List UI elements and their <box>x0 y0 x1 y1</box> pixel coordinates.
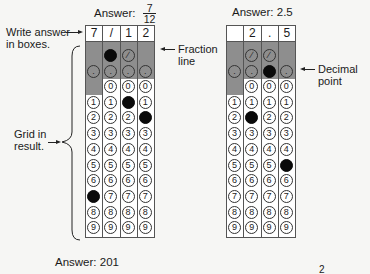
answer-box[interactable] <box>227 26 244 41</box>
digit-bubble-2[interactable]: 2 <box>263 111 276 124</box>
digit-bubble-6[interactable]: 6 <box>228 174 241 187</box>
digit-bubble-9[interactable]: 9 <box>280 221 293 234</box>
digit-bubble-2[interactable]: 2 <box>245 111 258 124</box>
digit-bubble-4[interactable]: 4 <box>280 143 293 156</box>
digit-bubble-2[interactable]: 2 <box>122 111 135 124</box>
digit-bubble-7[interactable]: 7 <box>104 190 117 203</box>
digit-bubble-0[interactable]: 0 <box>280 80 293 93</box>
digit-bubble-6[interactable]: 6 <box>280 174 293 187</box>
digit-bubble-5[interactable]: 5 <box>263 159 276 172</box>
digit-bubble-7[interactable]: 7 <box>87 190 100 203</box>
slash-bubble[interactable]: ∕ <box>245 49 258 62</box>
answer-box[interactable]: 7 <box>86 26 103 41</box>
digit-bubble-3[interactable]: 3 <box>122 127 135 140</box>
digit-bubble-0[interactable]: 0 <box>122 80 135 93</box>
digit-bubble-5[interactable]: 5 <box>245 159 258 172</box>
digit-bubble-2[interactable]: 2 <box>104 111 117 124</box>
digit-bubble-5[interactable]: 5 <box>139 159 152 172</box>
digit-bubble-6[interactable]: 6 <box>139 174 152 187</box>
digit-bubble-8[interactable]: 8 <box>263 206 276 219</box>
digit-bubble-7[interactable]: 7 <box>228 190 241 203</box>
digit-bubble-4[interactable]: 4 <box>139 143 152 156</box>
decimal-bubble[interactable]: . <box>139 65 152 78</box>
decimal-bubble[interactable]: . <box>280 65 293 78</box>
answer-box[interactable]: 5 <box>279 26 295 41</box>
digit-bubble-1[interactable]: 1 <box>280 96 293 109</box>
answer-box[interactable]: . <box>262 26 279 41</box>
digit-bubble-2[interactable]: 2 <box>139 111 152 124</box>
digit-bubble-0[interactable]: 0 <box>139 80 152 93</box>
digit-bubble-1[interactable]: 1 <box>263 96 276 109</box>
digit-bubble-3[interactable]: 3 <box>280 127 293 140</box>
digit-bubble-2[interactable]: 2 <box>228 111 241 124</box>
answer-label: Answer: <box>94 7 136 19</box>
slash-bubble[interactable]: ∕ <box>263 49 276 62</box>
digit-bubble-1[interactable]: 1 <box>139 96 152 109</box>
digit-bubble-2[interactable]: 2 <box>280 111 293 124</box>
digit-bubble-5[interactable]: 5 <box>228 159 241 172</box>
decimal-bubble[interactable]: . <box>104 65 117 78</box>
digit-bubble-8[interactable]: 8 <box>104 206 117 219</box>
digit-bubble-5[interactable]: 5 <box>87 159 100 172</box>
answer-box[interactable]: 2 <box>138 26 154 41</box>
digit-bubble-6[interactable]: 6 <box>245 174 258 187</box>
answer-box[interactable]: 1 <box>121 26 138 41</box>
digit-bubble-7[interactable]: 7 <box>280 190 293 203</box>
digit-bubble-1[interactable]: 1 <box>245 96 258 109</box>
digit-bubble-8[interactable]: 8 <box>139 206 152 219</box>
digit-bubble-7[interactable]: 7 <box>122 190 135 203</box>
digit-bubble-1[interactable]: 1 <box>122 96 135 109</box>
digit-bubble-4[interactable]: 4 <box>87 143 100 156</box>
digit-bubble-3[interactable]: 3 <box>87 127 100 140</box>
digit-bubble-8[interactable]: 8 <box>280 206 293 219</box>
digit-bubble-8[interactable]: 8 <box>245 206 258 219</box>
digit-bubble-9[interactable]: 9 <box>263 221 276 234</box>
decimal-bubble[interactable]: . <box>228 65 241 78</box>
digit-bubble-6[interactable]: 6 <box>87 174 100 187</box>
slash-bubble[interactable]: ∕ <box>104 49 117 62</box>
digit-bubble-3[interactable]: 3 <box>139 127 152 140</box>
digit-bubble-0[interactable]: 0 <box>104 80 117 93</box>
digit-bubble-7[interactable]: 7 <box>245 190 258 203</box>
digit-bubble-7[interactable]: 7 <box>263 190 276 203</box>
digit-bubble-1[interactable]: 1 <box>104 96 117 109</box>
digit-bubble-4[interactable]: 4 <box>263 143 276 156</box>
digit-bubble-3[interactable]: 3 <box>245 127 258 140</box>
digit-bubble-9[interactable]: 9 <box>122 221 135 234</box>
digit-bubble-9[interactable]: 9 <box>139 221 152 234</box>
answer-box[interactable]: 2 <box>244 26 261 41</box>
digit-bubble-6[interactable]: 6 <box>263 174 276 187</box>
digit-bubble-9[interactable]: 9 <box>245 221 258 234</box>
digit-bubble-5[interactable]: 5 <box>280 159 293 172</box>
digit-bubble-6[interactable]: 6 <box>104 174 117 187</box>
digit-bubble-3[interactable]: 3 <box>263 127 276 140</box>
digit-bubble-6[interactable]: 6 <box>122 174 135 187</box>
digit-bubble-8[interactable]: 8 <box>122 206 135 219</box>
digit-bubble-2[interactable]: 2 <box>87 111 100 124</box>
digit-bubble-8[interactable]: 8 <box>228 206 241 219</box>
digit-bubble-4[interactable]: 4 <box>228 143 241 156</box>
digit-bubble-3[interactable]: 3 <box>104 127 117 140</box>
digit-bubble-5[interactable]: 5 <box>122 159 135 172</box>
digit-bubble-1[interactable]: 1 <box>87 96 100 109</box>
digit-bubble-4[interactable]: 4 <box>122 143 135 156</box>
answer-box[interactable]: / <box>103 26 120 41</box>
digit-bubble-3[interactable]: 3 <box>228 127 241 140</box>
digit-bubble-9[interactable]: 9 <box>87 221 100 234</box>
digit-bubble-1[interactable]: 1 <box>228 96 241 109</box>
digit-bubble-8[interactable]: 8 <box>87 206 100 219</box>
digit-bubble-9[interactable]: 9 <box>104 221 117 234</box>
fraction-numerator: 7 <box>143 3 157 13</box>
digit-bubble-4[interactable]: 4 <box>245 143 258 156</box>
digit-bubble-9[interactable]: 9 <box>228 221 241 234</box>
digit-bubble-5[interactable]: 5 <box>104 159 117 172</box>
decimal-bubble[interactable]: . <box>263 65 276 78</box>
digit-bubble-4[interactable]: 4 <box>104 143 117 156</box>
digit-bubble-0[interactable]: 0 <box>263 80 276 93</box>
decimal-bubble[interactable]: . <box>245 65 258 78</box>
digit-bubble-7[interactable]: 7 <box>139 190 152 203</box>
digit-bubble-0[interactable]: 0 <box>245 80 258 93</box>
decimal-bubble[interactable]: . <box>87 65 100 78</box>
slash-bubble[interactable]: ∕ <box>122 49 135 62</box>
decimal-bubble[interactable]: . <box>122 65 135 78</box>
